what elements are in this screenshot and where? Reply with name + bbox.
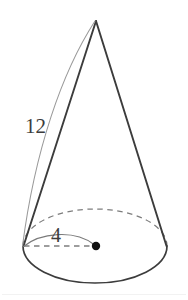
base-ellipse-front-solid-arc xyxy=(23,246,167,283)
cone-diagram-canvas xyxy=(0,0,188,300)
cone-figure: 12 4 xyxy=(0,0,188,300)
radius-label: 4 xyxy=(51,225,61,245)
slant-height-label: 12 xyxy=(25,116,46,137)
base-ellipse-back-dashed-arc xyxy=(23,209,167,246)
base-center-dot xyxy=(92,242,100,250)
slant-edge-right xyxy=(96,21,167,246)
